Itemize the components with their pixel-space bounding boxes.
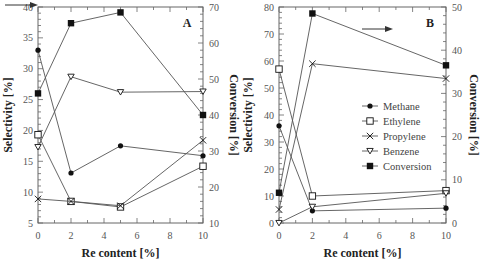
y2-tick-label: 30 bbox=[209, 146, 219, 157]
open-down-triangle-marker-icon bbox=[68, 74, 74, 79]
filled-circle-marker-icon bbox=[276, 123, 281, 128]
y2-tick-label: 50 bbox=[209, 74, 219, 85]
y2-tick-label: 40 bbox=[209, 110, 219, 121]
chart-panel-b: 01020304050607080010203040500246810Re co… bbox=[241, 2, 481, 259]
y-tick-label: 60 bbox=[264, 56, 274, 67]
legend-label: Propylene bbox=[383, 131, 426, 142]
figure: 510152025303540102030405060700246810Re c… bbox=[0, 0, 485, 259]
plot-frame bbox=[38, 7, 203, 223]
arrow-right-icon bbox=[362, 26, 393, 32]
y-axis-label: Selectivity [%] bbox=[241, 77, 255, 153]
y-tick-label: 35 bbox=[23, 32, 33, 43]
filled-square-marker-icon bbox=[68, 20, 74, 26]
y-tick-label: 30 bbox=[264, 137, 274, 148]
series-conversion bbox=[35, 9, 206, 118]
y-tick-label: 70 bbox=[264, 29, 274, 40]
y2-axis-label: Conversion [%] bbox=[227, 74, 241, 156]
legend: MethaneEthylenePropyleneBenzeneConversio… bbox=[362, 101, 432, 172]
filled-circle-marker-icon bbox=[367, 103, 372, 108]
filled-circle-marker-icon bbox=[35, 48, 40, 53]
y2-tick-label: 10 bbox=[452, 174, 462, 185]
filled-square-marker-icon bbox=[200, 112, 206, 118]
y-tick-label: 30 bbox=[23, 63, 33, 74]
x-axis-label: Re content [%] bbox=[82, 246, 160, 259]
legend-label: Conversion bbox=[383, 161, 432, 172]
x-axis-label: Re content [%] bbox=[324, 246, 402, 259]
legend-item-propylene: Propylene bbox=[362, 131, 426, 142]
y2-tick-label: 40 bbox=[452, 45, 462, 56]
y2-tick-label: 50 bbox=[452, 2, 462, 13]
y-tick-label: 10 bbox=[264, 191, 274, 202]
open-square-marker-icon bbox=[367, 118, 373, 124]
legend-item-ethylene: Ethylene bbox=[362, 116, 421, 127]
y-tick-label: 0 bbox=[269, 218, 274, 229]
y-tick-label: 20 bbox=[23, 125, 33, 136]
chart-panel-a: 510152025303540102030405060700246810Re c… bbox=[1, 2, 241, 259]
open-square-marker-icon bbox=[35, 132, 41, 138]
open-square-marker-icon bbox=[309, 193, 315, 199]
x-tick-label: 2 bbox=[310, 230, 315, 241]
y-tick-label: 80 bbox=[264, 2, 274, 13]
series-methane bbox=[35, 48, 205, 176]
legend-item-methane: Methane bbox=[362, 101, 420, 112]
filled-square-marker-icon bbox=[367, 163, 373, 169]
legend-item-conversion: Conversion bbox=[362, 161, 432, 172]
x-tick-label: 4 bbox=[102, 230, 107, 241]
x-tick-label: 6 bbox=[135, 230, 140, 241]
y-tick-label: 10 bbox=[23, 187, 33, 198]
filled-circle-marker-icon bbox=[68, 170, 73, 175]
series-benzene bbox=[35, 74, 206, 150]
y2-tick-label: 0 bbox=[452, 218, 457, 229]
filled-square-marker-icon bbox=[35, 90, 41, 96]
y-tick-label: 20 bbox=[264, 164, 274, 175]
filled-circle-marker-icon bbox=[443, 206, 448, 211]
filled-square-marker-icon bbox=[443, 62, 449, 68]
x-tick-label: 8 bbox=[410, 230, 415, 241]
y2-tick-label: 70 bbox=[209, 2, 219, 13]
filled-square-marker-icon bbox=[276, 190, 282, 196]
filled-circle-marker-icon bbox=[200, 153, 205, 158]
x-tick-label: 0 bbox=[36, 230, 41, 241]
legend-item-benzene: Benzene bbox=[362, 146, 419, 157]
open-square-marker-icon bbox=[276, 66, 282, 72]
legend-label: Methane bbox=[383, 101, 420, 112]
x-tick-label: 10 bbox=[198, 230, 208, 241]
y-tick-label: 40 bbox=[264, 110, 274, 121]
legend-label: Benzene bbox=[383, 146, 419, 157]
y2-tick-label: 30 bbox=[452, 88, 462, 99]
y2-tick-label: 20 bbox=[209, 182, 219, 193]
filled-square-marker-icon bbox=[117, 9, 123, 15]
x-tick-label: 2 bbox=[69, 230, 74, 241]
open-square-marker-icon bbox=[200, 163, 206, 169]
filled-square-marker-icon bbox=[309, 10, 315, 16]
x-tick-label: 10 bbox=[441, 230, 451, 241]
y2-tick-label: 10 bbox=[209, 218, 219, 229]
y-tick-label: 15 bbox=[23, 156, 33, 167]
y2-axis-label: Conversion [%] bbox=[467, 74, 481, 156]
y-tick-label: 5 bbox=[28, 218, 33, 229]
x-tick-label: 0 bbox=[277, 230, 282, 241]
arrow-right-icon bbox=[5, 2, 38, 8]
open-square-marker-icon bbox=[117, 204, 123, 210]
y2-tick-label: 20 bbox=[452, 131, 462, 142]
panel-label: B bbox=[426, 16, 434, 30]
x-tick-label: 8 bbox=[168, 230, 173, 241]
y-axis-label: Selectivity [%] bbox=[1, 77, 15, 153]
legend-label: Ethylene bbox=[383, 116, 421, 127]
panel-label: A bbox=[183, 16, 192, 30]
x-tick-label: 4 bbox=[343, 230, 348, 241]
y-tick-label: 50 bbox=[264, 83, 274, 94]
y2-tick-label: 60 bbox=[209, 38, 219, 49]
x-tick-label: 6 bbox=[377, 230, 382, 241]
y-tick-label: 25 bbox=[23, 94, 33, 105]
filled-circle-marker-icon bbox=[118, 143, 123, 148]
